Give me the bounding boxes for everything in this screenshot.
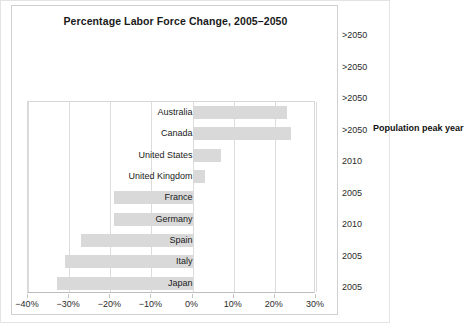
peak-year-value: >2050 [342, 125, 375, 135]
x-tick-label-30: 30% [295, 299, 335, 309]
bar-australia [193, 106, 288, 119]
bar-canada [193, 127, 292, 140]
plot-area: AustraliaCanadaUnited StatesUnited Kingd… [27, 101, 315, 293]
population-peak-year-column: Population peak year >2050>2050>2050>205… [342, 5, 375, 315]
bar-row: Australia [28, 102, 314, 123]
x-tick--40 [27, 294, 28, 298]
bar-row: Italy [28, 251, 314, 272]
x-tick--10 [150, 294, 151, 298]
peak-year-value: 2005 [342, 282, 375, 292]
x-axis: −40%−30%−20%−10%0%10%20%30% [27, 294, 315, 310]
gridline-30 [316, 102, 317, 292]
bar-row: France [28, 187, 314, 208]
peak-year-value: >2050 [342, 62, 375, 72]
x-tick-label--20: −20% [89, 299, 129, 309]
category-label-germany: Germany [28, 212, 196, 227]
bar-rows-group: AustraliaCanadaUnited StatesUnited Kingd… [28, 102, 314, 292]
x-tick-label--30: −30% [48, 299, 88, 309]
x-tick-label-10: 10% [213, 299, 253, 309]
x-tick-label--10: −10% [130, 299, 170, 309]
category-label-united-kingdom: United Kingdom [28, 169, 196, 184]
peak-year-value: 2010 [342, 156, 375, 166]
bar-row: United States [28, 145, 314, 166]
peak-year-value: >2050 [342, 93, 375, 103]
bar-row: Spain [28, 230, 314, 251]
bar-row: Germany [28, 209, 314, 230]
peak-year-value: 2005 [342, 251, 375, 261]
category-label-australia: Australia [28, 105, 196, 120]
x-tick-0 [192, 294, 193, 298]
category-label-spain: Spain [28, 233, 196, 248]
x-tick-30 [315, 294, 316, 298]
x-tick--20 [109, 294, 110, 298]
x-tick-10 [233, 294, 234, 298]
category-label-italy: Italy [28, 254, 196, 269]
bar-row: Canada [28, 123, 314, 144]
x-tick-label--40: −40% [7, 299, 47, 309]
category-label-japan: Japan [28, 276, 196, 291]
bar-row: United Kingdom [28, 166, 314, 187]
category-label-canada: Canada [28, 126, 196, 141]
category-label-united-states: United States [28, 148, 196, 163]
x-tick-label-20: 20% [254, 299, 294, 309]
peak-year-value: >2050 [342, 30, 375, 40]
bar-row: Japan [28, 273, 314, 294]
x-tick--30 [68, 294, 69, 298]
category-label-france: France [28, 190, 196, 205]
peak-year-value: 2010 [342, 219, 375, 229]
secondary-axis-title: Population peak year [373, 123, 464, 133]
peak-year-value: 2005 [342, 188, 375, 198]
x-tick-20 [274, 294, 275, 298]
bar-united-states [193, 149, 222, 162]
x-tick-label-0: 0% [172, 299, 212, 309]
chart-title: Percentage Labor Force Change, 2005–2050 [12, 15, 339, 27]
chart-container: Percentage Labor Force Change, 2005–2050… [11, 5, 338, 315]
